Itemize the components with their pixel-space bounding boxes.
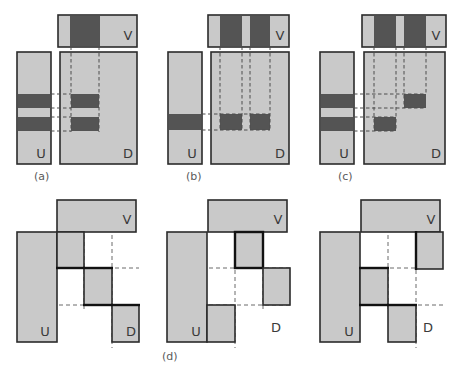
panel-d3-v-block[interactable]: V <box>361 200 440 232</box>
panel-d1-step-2[interactable] <box>83 268 113 305</box>
panel-d2-step-1[interactable] <box>235 232 263 268</box>
panel-b-v-dark-1 <box>220 16 242 46</box>
panel-a-d-cell-2 <box>71 117 99 131</box>
panel-d2-d-label: D <box>271 320 281 335</box>
panel-b-d-block[interactable]: D <box>211 52 289 164</box>
panel-c-d-cell-2 <box>374 117 396 131</box>
caption-a: (a) <box>34 170 49 183</box>
panel-b-u-dark-1 <box>169 114 201 130</box>
panel-a-v-dark-segment <box>70 16 100 46</box>
panel-d1-step-3[interactable]: D <box>111 305 140 342</box>
panel-d3-step-3[interactable] <box>387 305 417 342</box>
panel-c-u-dark-2 <box>321 117 353 131</box>
panel-d1-v-label: V <box>123 212 132 227</box>
panel-d3-u-label: U <box>344 324 354 339</box>
panel-d3-v-label: V <box>427 212 436 227</box>
panel-a-d-label: D <box>123 146 133 161</box>
panel-a-d-block[interactable]: D <box>60 52 137 164</box>
panel-d3-u-block[interactable]: U <box>320 232 360 342</box>
panel-a-u-label: U <box>36 146 46 161</box>
panel-c-u-dark-1 <box>321 94 353 108</box>
figure-canvas: V U D <box>0 0 458 375</box>
panel-b-u-label: U <box>187 146 197 161</box>
panel-b-v-dark-2 <box>250 16 270 46</box>
panel-a-v-block[interactable]: V <box>58 15 137 47</box>
panel-b-v-label: V <box>276 28 285 43</box>
panel-a-u-block[interactable]: U <box>17 52 51 164</box>
panel-d2-v-label: V <box>274 212 283 227</box>
caption-c: (c) <box>338 170 353 183</box>
panel-c-u-block[interactable]: U <box>320 52 354 164</box>
caption-b: (b) <box>186 170 202 183</box>
panel-b-d-label: D <box>275 146 285 161</box>
panel-d2-step-3[interactable] <box>207 305 235 342</box>
panel-c-u-label: U <box>339 146 349 161</box>
panel-d1-v-block[interactable]: V <box>57 200 136 232</box>
panel-b-u-block[interactable]: U <box>168 52 202 164</box>
panel-c-v-dark-1 <box>374 16 396 46</box>
panel-c-v-dark-2 <box>404 16 426 46</box>
panel-c-d-cell-1 <box>404 94 426 108</box>
panel-b-d-cell-2 <box>250 114 270 130</box>
panel-c-v-block[interactable]: V <box>362 15 446 47</box>
panel-d1-u-block[interactable]: U <box>17 232 57 342</box>
panel-c-v-label: V <box>432 28 441 43</box>
panel-d2-step-2[interactable] <box>263 268 290 305</box>
panel-d2-u-label: U <box>191 324 201 339</box>
panel-a-u-dark-1 <box>18 94 50 108</box>
panel-a-d-cell-1 <box>71 94 99 108</box>
caption-d: (d) <box>162 350 178 363</box>
panel-d2-v-block[interactable]: V <box>208 200 287 232</box>
panel-d1-u-label: U <box>40 324 50 339</box>
panel-c-d-label: D <box>431 146 441 161</box>
panel-a-v-label: V <box>124 28 133 43</box>
panel-b-v-block[interactable]: V <box>208 15 289 47</box>
panel-a-u-dark-2 <box>18 117 50 131</box>
panel-d3-step-2[interactable] <box>359 268 389 305</box>
panel-d3-step-1[interactable] <box>416 231 443 270</box>
panel-d2-u-block[interactable]: U <box>167 232 207 342</box>
panel-d1-step-1[interactable] <box>56 232 85 268</box>
panel-d1-d-label: D <box>126 324 136 339</box>
panel-b-d-cell-1 <box>220 114 242 130</box>
panel-d3-d-label: D <box>423 320 433 335</box>
